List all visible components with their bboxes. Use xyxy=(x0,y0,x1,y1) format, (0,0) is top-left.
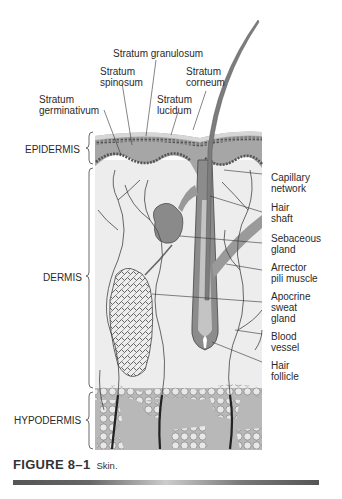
label-blood-vessel: Blood vessel xyxy=(271,331,299,353)
hypodermis-region xyxy=(95,384,262,450)
figure-number: FIGURE 8–1 xyxy=(13,457,90,472)
layer-braces xyxy=(86,132,93,449)
label-stratum-spinosum: Stratum spinosum xyxy=(100,66,143,88)
label-arrector-pili: Arrector pili muscle xyxy=(271,262,318,284)
label-stratum-corneum: Stratum corneum xyxy=(186,66,225,88)
label-hair-shaft: Hair shaft xyxy=(271,202,293,224)
caption-rule xyxy=(13,480,319,485)
figure-caption-text: Skin. xyxy=(96,460,117,471)
label-capillary-network: Capillary network xyxy=(271,172,310,194)
label-stratum-germinativum: Stratum germinativum xyxy=(39,94,99,116)
label-dermis: DERMIS xyxy=(43,272,82,283)
label-sebaceous-gland: Sebaceous gland xyxy=(271,233,321,255)
label-hypodermis: HYPODERMIS xyxy=(14,415,81,426)
label-epidermis: EPIDERMIS xyxy=(25,144,80,155)
label-apocrine-sweat-gland: Apocrine sweat gland xyxy=(271,291,310,324)
label-stratum-lucidum: Stratum lucidum xyxy=(157,94,192,116)
label-stratum-granulosum: Stratum granulosum xyxy=(113,48,203,59)
figure-caption: FIGURE 8–1Skin. xyxy=(13,458,118,473)
label-hair-follicle: Hair follicle xyxy=(271,360,299,382)
